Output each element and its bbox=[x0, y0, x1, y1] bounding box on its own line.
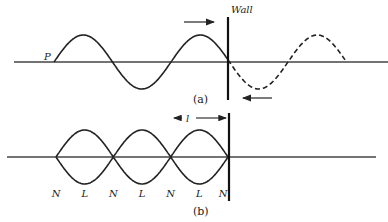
wall-label: Wall bbox=[231, 4, 253, 15]
standing-wave-upper-envelope bbox=[56, 130, 228, 157]
panel-b: l NLNLNLN (b) bbox=[7, 113, 376, 218]
loop-label: L bbox=[195, 188, 203, 199]
loop-label: L bbox=[138, 188, 146, 199]
node-label: N bbox=[165, 188, 176, 199]
loop-label: L bbox=[80, 188, 88, 199]
length-label: l bbox=[186, 113, 189, 124]
node-labels: NLNLNLN bbox=[51, 188, 229, 199]
node-label: N bbox=[51, 188, 62, 199]
panel-a: Wall P (a) bbox=[14, 4, 388, 106]
standing-wave-diagram: Wall P (a) l NLNLNLN (b) bbox=[0, 0, 388, 222]
caption-a: (a) bbox=[193, 93, 208, 106]
point-p-label: P bbox=[43, 51, 51, 62]
node-label: N bbox=[108, 188, 119, 199]
caption-b: (b) bbox=[193, 205, 209, 218]
node-label: N bbox=[218, 188, 229, 199]
standing-wave-lower-envelope bbox=[56, 157, 228, 184]
